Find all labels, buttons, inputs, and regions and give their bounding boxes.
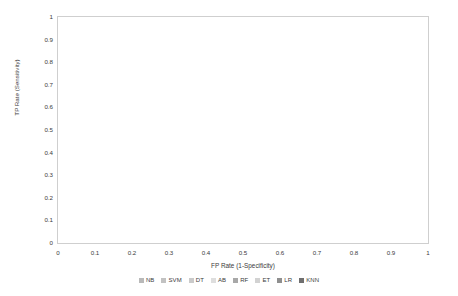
legend-label: SVM [168,277,181,283]
y-tick-label: 0.9 [31,36,53,43]
legend-label: DT [196,277,204,283]
legend-swatch-icon [161,278,166,283]
chart-legend: NBSVMDTABRFETLRKNN [0,277,458,283]
legend-item-dt[interactable]: DT [189,277,204,283]
legend-swatch-icon [211,278,216,283]
y-tick-label: 0.6 [31,103,53,110]
legend-item-et[interactable]: ET [255,277,270,283]
y-tick-label: 0.3 [31,171,53,178]
legend-swatch-icon [255,278,260,283]
legend-label: KNN [306,277,319,283]
legend-swatch-icon [189,278,194,283]
legend-item-lr[interactable]: LR [277,277,292,283]
x-tick-label: 0.9 [378,249,404,256]
y-tick-label: 0 [31,239,53,246]
y-axis-title: TP Rate (Sensitivity) [13,28,20,148]
legend-item-nb[interactable]: NB [139,277,155,283]
legend-item-knn[interactable]: KNN [299,277,319,283]
legend-swatch-icon [233,278,238,283]
y-tick-label: 0.1 [31,216,53,223]
x-tick-label: 1 [415,249,441,256]
y-tick-label: 0.2 [31,194,53,201]
x-axis-title: FP Rate (1-Specificity) [57,262,429,269]
legend-item-rf[interactable]: RF [233,277,248,283]
y-tick-label: 0.5 [31,126,53,133]
y-tick-label: 0.4 [31,149,53,156]
legend-swatch-icon [299,278,304,283]
legend-label: AB [218,277,226,283]
x-tick-label: 0.1 [82,249,108,256]
x-tick-label: 0.7 [304,249,330,256]
y-tick-label: 0.8 [31,58,53,65]
plot-area-border [57,16,429,244]
legend-label: RF [240,277,248,283]
x-tick-label: 0.8 [341,249,367,256]
x-tick-label: 0.6 [267,249,293,256]
y-tick-label: 0.7 [31,81,53,88]
x-tick-label: 0.5 [230,249,256,256]
legend-swatch-icon [277,278,282,283]
legend-label: ET [262,277,270,283]
legend-item-svm[interactable]: SVM [161,277,181,283]
y-tick-label: 1 [31,13,53,20]
legend-label: LR [284,277,292,283]
x-tick-label: 0.2 [119,249,145,256]
x-tick-label: 0 [45,249,71,256]
legend-label: NB [146,277,155,283]
x-tick-label: 0.4 [193,249,219,256]
legend-item-ab[interactable]: AB [211,277,226,283]
legend-swatch-icon [139,278,144,283]
x-tick-label: 0.3 [156,249,182,256]
roc-chart-figure: 00.10.20.30.40.50.60.70.80.91 00.10.20.3… [0,0,458,296]
